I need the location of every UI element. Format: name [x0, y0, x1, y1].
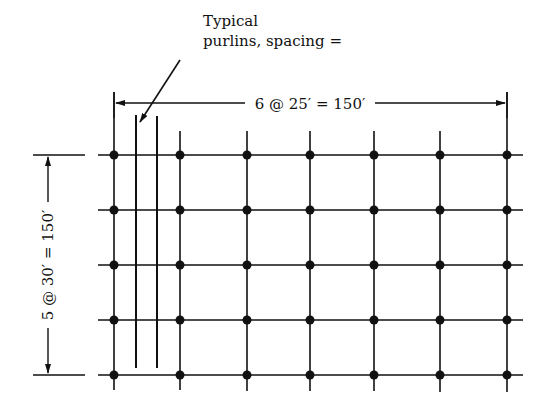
horizontal-dimension-label: 6 @ 25′ = 150′: [255, 95, 366, 113]
annotation-line2: purlins, spacing =: [203, 32, 342, 50]
column-node-icon: [370, 206, 379, 215]
column-node-icon: [176, 371, 185, 380]
column-node-icon: [370, 371, 379, 380]
column-node-icon: [503, 261, 512, 270]
column-node-icon: [370, 316, 379, 325]
vertical-dimension: 5 @ 30′ = 150′: [33, 155, 85, 375]
column-node-icon: [243, 261, 252, 270]
column-node-icon: [306, 206, 315, 215]
column-node-icon: [370, 261, 379, 270]
column-node-icon: [306, 151, 315, 160]
column-node-icon: [436, 261, 445, 270]
purlins: [136, 115, 157, 368]
column-node-icon: [110, 151, 119, 160]
column-node-icon: [243, 206, 252, 215]
column-node-icon: [436, 371, 445, 380]
column-node-icon: [243, 371, 252, 380]
roof-framing-plan: Typical purlins, spacing = 6 @ 25′ = 150…: [0, 0, 549, 420]
column-node-icon: [243, 151, 252, 160]
vertical-dimension-label: 5 @ 30′ = 150′: [39, 209, 57, 320]
column-node-icon: [503, 371, 512, 380]
column-node-icon: [370, 151, 379, 160]
column-lines: [114, 92, 507, 392]
column-node-icon: [176, 206, 185, 215]
column-node-icon: [110, 316, 119, 325]
column-node-icon: [110, 261, 119, 270]
column-node-icon: [176, 151, 185, 160]
column-node-icon: [306, 371, 315, 380]
column-node-icon: [243, 316, 252, 325]
column-node-icon: [436, 316, 445, 325]
annotation-line1: Typical: [203, 12, 258, 30]
column-node-icon: [436, 206, 445, 215]
column-node-icon: [176, 261, 185, 270]
column-node-icon: [306, 261, 315, 270]
column-node-icon: [436, 151, 445, 160]
column-node-icon: [176, 316, 185, 325]
column-node-icon: [306, 316, 315, 325]
column-node-icon: [503, 151, 512, 160]
column-node-icon: [110, 371, 119, 380]
column-node-icon: [110, 206, 119, 215]
column-node-icon: [503, 206, 512, 215]
leader-arrow-icon: [140, 60, 180, 122]
horizontal-dimension: 6 @ 25′ = 150′: [114, 92, 507, 118]
column-node-icon: [503, 316, 512, 325]
